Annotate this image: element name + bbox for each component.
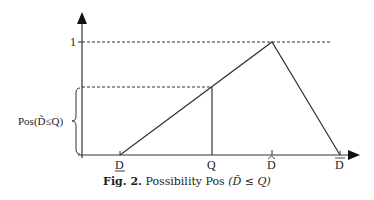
caption-text: Possibility Pos bbox=[145, 175, 224, 188]
x-label-d-upper: D bbox=[335, 158, 345, 172]
svg-text:D: D bbox=[335, 158, 344, 172]
x-label-q: Q bbox=[207, 158, 216, 172]
x-axis-arrow-icon bbox=[348, 150, 360, 160]
x-label-d-hat: D bbox=[267, 156, 276, 172]
caption-figure-number: Fig. 2. bbox=[103, 175, 142, 188]
diagram-canvas: 1 D Q D D Pos(D̃≤Q) bbox=[0, 0, 374, 200]
brace-label-pos: Pos(D̃≤Q) bbox=[18, 115, 63, 128]
membership-triangle bbox=[120, 42, 340, 155]
caption-formula: (D̃ ≤ Q) bbox=[228, 175, 271, 188]
curly-brace-icon bbox=[72, 88, 80, 154]
figure-caption: Fig. 2. Possibility Pos (D̃ ≤ Q) bbox=[0, 175, 374, 188]
tick-label-one: 1 bbox=[70, 35, 76, 49]
svg-text:D: D bbox=[267, 158, 276, 172]
svg-text:D: D bbox=[115, 158, 124, 172]
possibility-diagram: 1 D Q D D Pos(D̃≤Q) Fig. 2. bbox=[0, 0, 374, 200]
x-label-d-lower: D bbox=[115, 158, 125, 172]
y-axis-arrow-icon bbox=[77, 12, 87, 24]
svg-text:Q: Q bbox=[207, 158, 216, 172]
